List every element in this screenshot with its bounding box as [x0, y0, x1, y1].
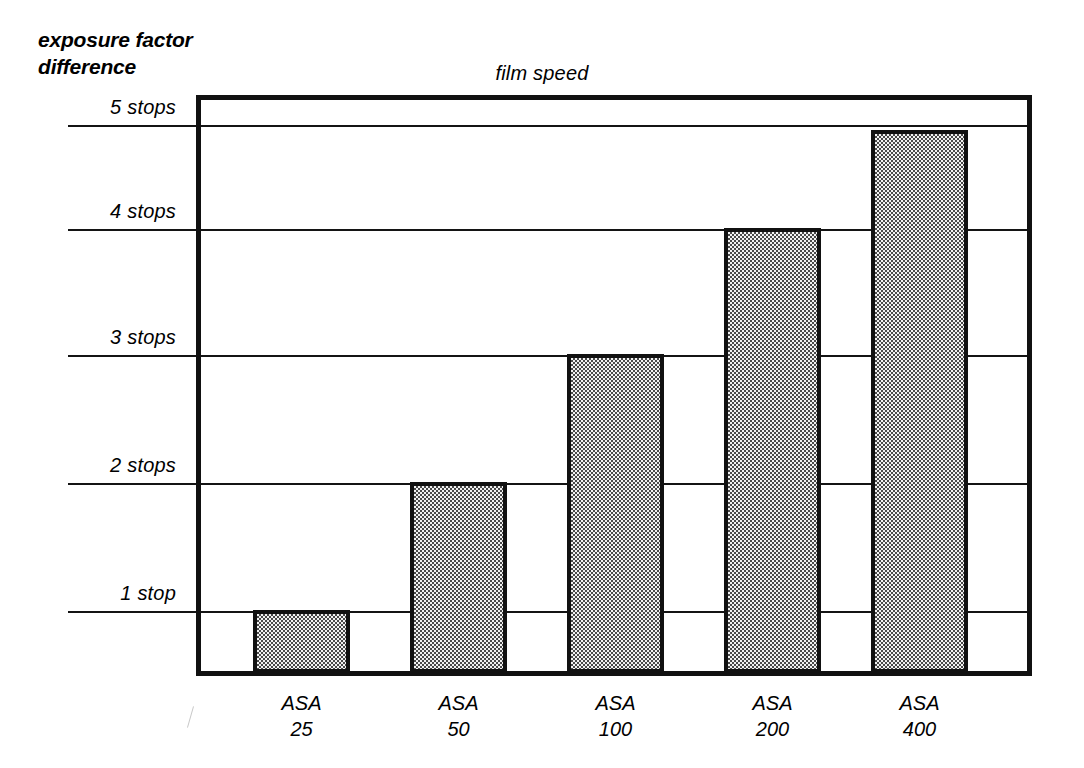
x-tick-label-asa-200: ASA 200 — [722, 690, 823, 742]
y-tick-label-3-stops: 3 stops — [56, 326, 176, 349]
chart-figure: exposure factor difference film speed 5 … — [0, 0, 1084, 768]
x-tick-value-asa-25: 25 — [251, 716, 352, 742]
y-tick-label-1-stop: 1 stop — [56, 582, 176, 605]
y-tick-label-4-stops: 4 stops — [56, 200, 176, 223]
x-tick-label-asa-100: ASA 100 — [565, 690, 666, 742]
x-tick-value-asa-50: 50 — [408, 716, 509, 742]
x-tick-name-asa-200: ASA — [722, 690, 823, 716]
x-tick-name-asa-25: ASA — [251, 690, 352, 716]
x-tick-name-asa-400: ASA — [869, 690, 970, 716]
x-tick-name-asa-50: ASA — [408, 690, 509, 716]
y-tick-label-5-stops: 5 stops — [56, 96, 176, 119]
bar-asa-50[interactable] — [410, 482, 507, 673]
x-tick-label-asa-50: ASA 50 — [408, 690, 509, 742]
y-axis-title-line1: exposure factor — [38, 28, 193, 51]
bar-asa-400[interactable] — [871, 130, 968, 673]
scan-artifact-mark — [187, 706, 194, 727]
x-tick-label-asa-400: ASA 400 — [869, 690, 970, 742]
y-tick-label-2-stops: 2 stops — [56, 454, 176, 477]
x-tick-value-asa-200: 200 — [722, 716, 823, 742]
x-tick-value-asa-400: 400 — [869, 716, 970, 742]
x-tick-label-asa-25: ASA 25 — [251, 690, 352, 742]
bar-asa-25[interactable] — [253, 610, 350, 673]
x-tick-name-asa-100: ASA — [565, 690, 666, 716]
x-tick-value-asa-100: 100 — [565, 716, 666, 742]
bar-asa-200[interactable] — [724, 228, 821, 673]
bar-asa-100[interactable] — [567, 354, 664, 673]
plot-caption: film speed — [0, 62, 1084, 85]
